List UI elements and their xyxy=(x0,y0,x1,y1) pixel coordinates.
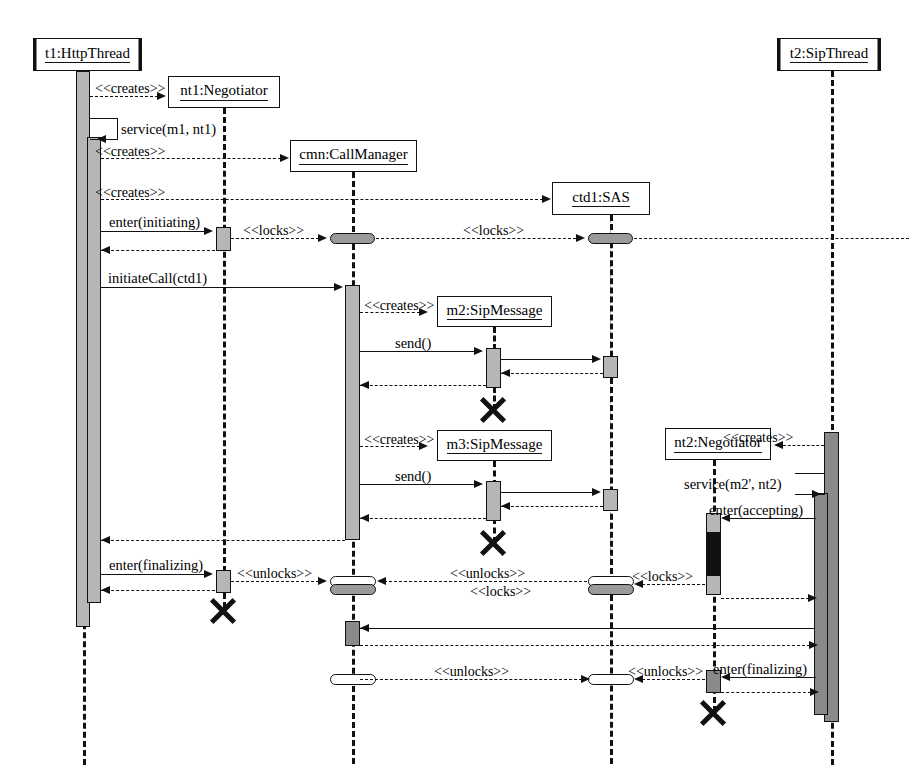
message-label-send-1: send() xyxy=(395,336,431,351)
activation-m2-send xyxy=(486,348,501,388)
message-line-m2-to-ctd1 xyxy=(501,359,593,360)
message-line-unlocks-3 xyxy=(360,679,582,680)
arrowhead-enter-accepting xyxy=(721,514,730,522)
message-label-locks-2: <<locks>> xyxy=(463,224,524,238)
activation-cmn-initiatecall xyxy=(345,285,360,540)
arrowhead-create-nt2 xyxy=(774,441,783,449)
arrowhead-return-initiating xyxy=(101,246,110,254)
activation-cmn-unlock-call xyxy=(345,621,360,646)
object-box-cmn[interactable]: cmn:CallManager xyxy=(290,140,417,172)
message-line-locks-2 xyxy=(376,238,576,239)
activation-ctd1-recv-2 xyxy=(603,489,618,511)
message-label-creates-cmn: <<creates>> xyxy=(95,145,165,159)
message-line-locks-1 xyxy=(231,238,319,239)
object-label-ctd1: ctd1:SAS xyxy=(572,190,630,208)
message-line-return-finalizing-1 xyxy=(101,590,215,591)
activation-t1-nested xyxy=(87,137,101,603)
message-label-locks-4: <<locks>> xyxy=(470,585,531,599)
activation-nt2-blocked xyxy=(706,532,721,576)
message-line-ctd1-return-2 xyxy=(501,506,603,507)
message-line-send-return-2 xyxy=(360,518,486,519)
arrowhead-cmn-return-t2 xyxy=(809,641,818,649)
arrowhead-create-cmn xyxy=(280,154,289,162)
arrowhead-unlocks-2 xyxy=(377,577,386,585)
activation-nt1-enter-initiating xyxy=(216,227,231,251)
message-label-send-2: send() xyxy=(395,469,431,484)
message-line-unlocks-2 xyxy=(384,581,587,582)
message-line-unlocks-1 xyxy=(231,581,319,582)
object-label-t2: t2:SipThread xyxy=(790,46,868,64)
message-label-enter-finalizing-1: enter(finalizing) xyxy=(109,558,203,573)
arrowhead-m3-to-ctd1 xyxy=(592,488,601,496)
arrowhead-locks-3 xyxy=(634,580,643,588)
message-line-send-return-1 xyxy=(360,385,486,386)
arrowhead-send-return-1 xyxy=(360,381,369,389)
object-box-t1[interactable]: t1:HttpThread xyxy=(33,38,142,71)
arrowhead-send-2 xyxy=(474,480,483,488)
message-label-service-m2p: service(m2', nt2) xyxy=(684,477,782,492)
message-line-create-m3 xyxy=(360,446,420,447)
destruction-marker-m2 xyxy=(477,394,509,426)
arrowhead-unlocks-1 xyxy=(318,577,327,585)
arrowhead-unlocks-4 xyxy=(634,675,643,683)
arrowhead-t2-to-cmn xyxy=(360,624,369,632)
arrowhead-send-1 xyxy=(474,347,483,355)
arrowhead-send-return-2 xyxy=(360,514,369,522)
activation-t2-nested xyxy=(814,493,828,715)
destruction-marker-m3 xyxy=(477,527,509,559)
arrowhead-enter-finalizing-2 xyxy=(721,673,730,681)
lock-token-ctd1-1 xyxy=(588,233,633,244)
object-label-m2: m2:SipMessage xyxy=(447,303,543,321)
message-line-cmn-return-t1 xyxy=(101,540,345,541)
arrowhead-service-m1 xyxy=(97,135,106,143)
destruction-marker-nt1 xyxy=(207,595,239,627)
message-line-enter-finalizing-2 xyxy=(730,677,816,678)
lifeline-nt1 xyxy=(223,108,226,608)
object-box-t2[interactable]: t2:SipThread xyxy=(777,38,881,71)
arrowhead-enter-initiating xyxy=(204,227,213,235)
message-line-initiatecall xyxy=(101,287,335,288)
lock-token-cmn-1 xyxy=(330,233,375,244)
arrowhead-cmn-return-t1 xyxy=(101,536,110,544)
object-box-m3[interactable]: m3:SipMessage xyxy=(437,430,552,461)
arrowhead-create-nt1 xyxy=(157,92,166,100)
message-line-return-finalizing-2 xyxy=(721,692,811,693)
arrowhead-create-m2 xyxy=(419,308,428,316)
message-label-unlocks-3: <<unlocks>> xyxy=(434,665,509,679)
message-line-create-ctd1 xyxy=(101,199,543,200)
message-label-locks-1: <<locks>> xyxy=(243,224,304,238)
arrowhead-ctd1-return-1 xyxy=(501,369,510,377)
object-label-cmn: cmn:CallManager xyxy=(299,147,407,165)
arrowhead-create-m3 xyxy=(419,442,428,450)
message-label-unlocks-2: <<unlocks>> xyxy=(450,567,525,581)
message-label-unlocks-1: <<unlocks>> xyxy=(237,567,312,581)
object-label-t1: t1:HttpThread xyxy=(45,46,130,64)
object-label-nt1: nt1:Negotiator xyxy=(180,83,267,101)
activation-nt1-enter-finalizing xyxy=(216,570,231,593)
message-line-locks-3 xyxy=(642,584,705,585)
sequence-diagram-canvas: t1:HttpThread nt1:Negotiator cmn:CallMan… xyxy=(0,0,909,765)
message-line-send-1 xyxy=(360,351,475,352)
object-label-m3: m3:SipMessage xyxy=(447,437,543,455)
message-line-t2-to-cmn xyxy=(360,628,815,629)
object-box-m2[interactable]: m2:SipMessage xyxy=(437,296,552,327)
message-label-enter-initiating: enter(initiating) xyxy=(109,215,200,230)
message-line-m3-to-ctd1 xyxy=(501,492,593,493)
arrowhead-return-finalizing-1 xyxy=(101,586,110,594)
message-label-creates-ctd1: <<creates>> xyxy=(95,186,165,200)
arrowhead-create-ctd1 xyxy=(542,195,551,203)
message-line-enter-finalizing-1 xyxy=(101,574,205,575)
arrowhead-locks-2 xyxy=(576,234,585,242)
message-line-enter-initiating xyxy=(101,231,205,232)
object-box-nt1[interactable]: nt1:Negotiator xyxy=(168,76,280,108)
arrowhead-m2-to-ctd1 xyxy=(592,355,601,363)
message-line-send-2 xyxy=(360,484,475,485)
message-line-cmn-return-t2 xyxy=(360,645,810,646)
arrowhead-locks-1 xyxy=(318,234,327,242)
message-line-ctd1-return-1 xyxy=(501,373,603,374)
arrowhead-ctd1-return-2 xyxy=(501,502,510,510)
arrowhead-initiatecall xyxy=(334,283,343,291)
message-line-create-m2 xyxy=(360,312,420,313)
lock-token-ctd1-2 xyxy=(588,584,634,595)
object-box-ctd1[interactable]: ctd1:SAS xyxy=(552,182,650,215)
